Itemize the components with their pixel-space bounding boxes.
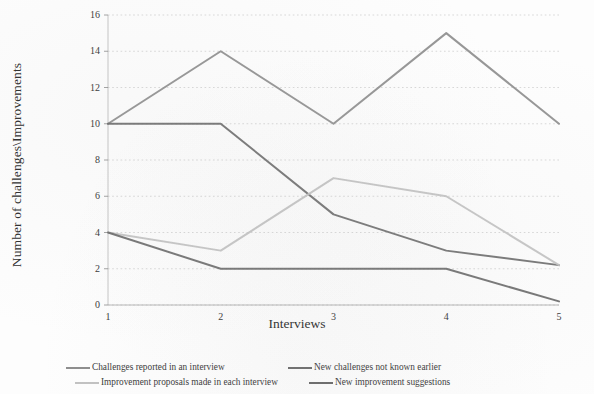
y-tick-label: 14 <box>78 45 100 56</box>
y-tick-label: 4 <box>78 227 100 238</box>
legend-row: Improvement proposals made in each inter… <box>66 375 536 390</box>
legend-line-swatch-icon <box>75 382 99 384</box>
legend-label: New challenges not known earlier <box>314 362 441 373</box>
legend-row: Challenges reported in an interview New … <box>66 360 536 375</box>
y-tick-label: 10 <box>78 118 100 129</box>
legend-entry-new-improvement-suggestions: New improvement suggestions <box>309 377 450 388</box>
y-tick-label: 16 <box>78 9 100 20</box>
x-axis-title: Interviews <box>0 316 594 332</box>
legend-line-swatch-icon <box>309 382 333 384</box>
legend-label: Improvement proposals made in each inter… <box>101 377 278 388</box>
y-tick-label: 8 <box>78 154 100 165</box>
legend-entry-new-challenges: New challenges not known earlier <box>288 362 441 373</box>
y-tick-label: 2 <box>78 263 100 274</box>
legend-entry-challenges-reported: Challenges reported in an interview <box>66 362 288 373</box>
y-tick-label: 0 <box>78 299 100 310</box>
legend-label: New improvement suggestions <box>335 377 450 388</box>
y-axis-title-text: Number of challenges\Improvements <box>9 63 25 267</box>
series-lines <box>108 33 559 301</box>
x-tick-label: 4 <box>436 311 456 322</box>
line-chart-figure: Number of challenges\Improvements Interv… <box>0 0 594 394</box>
x-tick-label: 5 <box>549 311 569 322</box>
x-tick-label: 1 <box>98 311 118 322</box>
chart-legend: Challenges reported in an interview New … <box>66 360 536 390</box>
y-tick-label: 6 <box>78 190 100 201</box>
y-axis-title: Number of challenges\Improvements <box>2 0 32 330</box>
y-tick-label: 12 <box>78 82 100 93</box>
legend-line-swatch-icon <box>66 367 90 369</box>
gridlines <box>108 15 559 305</box>
series-line-3 <box>108 178 559 265</box>
legend-entry-improvement-proposals: Improvement proposals made in each inter… <box>75 377 309 388</box>
legend-line-swatch-icon <box>288 367 312 369</box>
x-axis-title-text: Interviews <box>269 316 326 331</box>
series-line-1 <box>108 33 559 124</box>
legend-label: Challenges reported in an interview <box>92 362 225 373</box>
x-tick-label: 3 <box>324 311 344 322</box>
x-tick-label: 2 <box>211 311 231 322</box>
